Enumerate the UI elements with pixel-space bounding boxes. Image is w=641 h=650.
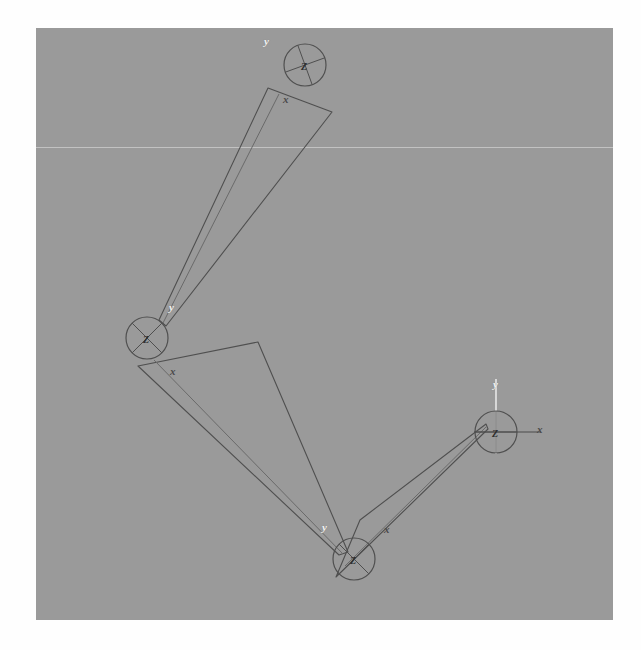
- joint-2-y-label: y: [169, 302, 174, 313]
- link-1-inner-edge: [163, 94, 279, 323]
- diagram-canvas: ZyxZyxZyxZyx: [36, 28, 613, 620]
- joint-1-y-label: y: [264, 36, 269, 47]
- joint-3-z-label: Z: [350, 555, 356, 566]
- link-1-outline: [159, 88, 332, 326]
- joint-3-y-label: y: [322, 522, 327, 533]
- joint-2-spoke-1: [147, 323, 162, 338]
- joint-3-x-label: x: [384, 524, 390, 535]
- link-3-inner-edge: [345, 427, 486, 566]
- link-2-inner-edge: [154, 360, 343, 554]
- joint-3-spoke-4: [354, 559, 369, 574]
- joint-4-x-label: x: [537, 424, 543, 435]
- joint-2-z-label: Z: [143, 334, 149, 345]
- joint-4-group[interactable]: [474, 379, 541, 454]
- joint-4-z-label: Z: [492, 428, 498, 439]
- joint-2-spoke-4: [147, 338, 162, 353]
- joint-4-y-label: y: [493, 379, 498, 390]
- joint-2-x-label: x: [170, 366, 176, 377]
- joint-1-z-label: Z: [301, 61, 307, 72]
- joint-1-x-label: x: [283, 94, 289, 105]
- joint-3-spoke-1: [354, 544, 369, 559]
- figure-page: ZyxZyxZyxZyx: [0, 0, 641, 650]
- link-1-group: [159, 88, 332, 326]
- joint-1-spoke-1: [305, 58, 325, 65]
